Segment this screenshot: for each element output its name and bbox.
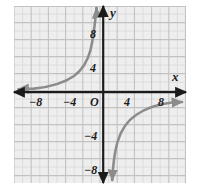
x-axis-label: x [172,70,179,83]
origin-label: O [90,96,99,108]
y-tick-label-neg8: −8 [84,164,97,176]
x-tick-label-neg8: −8 [29,96,42,108]
x-tick-label-8: 8 [158,96,164,108]
graph-figure: x y O −8 −4 4 8 8 4 −4 −8 [0,0,199,191]
y-tick-label-8: 8 [90,28,96,40]
x-tick-label-neg4: −4 [63,96,76,108]
y-tick-label-neg4: −4 [84,130,97,142]
y-tick-label-4: 4 [90,62,96,74]
y-axis-label: y [110,6,116,19]
x-tick-label-4: 4 [124,96,130,108]
